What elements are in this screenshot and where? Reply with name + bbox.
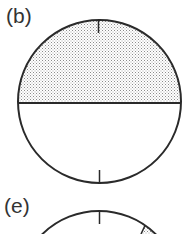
circle-diagram-b [18, 20, 181, 183]
diagram-canvas [0, 0, 194, 234]
shaded-wedge [141, 215, 175, 234]
circle-diagram-e [18, 211, 180, 234]
shaded-upper-half [18, 21, 181, 102]
